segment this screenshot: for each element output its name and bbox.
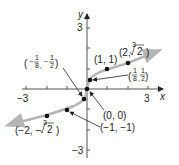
svg-text:): ) <box>56 125 59 136</box>
svg-text:2: 2 <box>137 46 143 57</box>
x-max-label: 3 <box>144 93 150 104</box>
point-m18 <box>82 97 87 102</box>
point-origin <box>85 87 90 92</box>
x-axis <box>22 86 163 89</box>
svg-text:1: 1 <box>50 54 54 61</box>
svg-text:−: − <box>29 58 33 65</box>
svg-text:(−2, −: (−2, − <box>15 125 41 136</box>
svg-text:8: 8 <box>35 62 39 69</box>
point-m2 <box>45 114 50 119</box>
y-axis-label: y <box>77 9 84 20</box>
svg-text:,: , <box>40 62 42 69</box>
point-m1 <box>65 108 70 113</box>
label-1-1: (1, 1) <box>94 54 117 65</box>
svg-text:1: 1 <box>133 67 137 74</box>
x-min-label: −3 <box>17 93 29 104</box>
y-max-label: 3 <box>77 22 83 33</box>
svg-text:(: ( <box>24 58 28 69</box>
svg-text:2: 2 <box>47 124 53 135</box>
point-1 <box>105 67 110 72</box>
y-min-label: −3 <box>72 145 84 156</box>
svg-text:): ) <box>55 58 58 69</box>
svg-text:2: 2 <box>50 62 54 69</box>
label-eighth-half: ( 1 8 , 1 2 ) <box>128 67 148 82</box>
x-axis-label: x <box>159 91 166 102</box>
point-18 <box>88 78 93 83</box>
svg-text:(2,: (2, <box>119 47 131 58</box>
label-neg-eighth-half: ( − 1 8 , − 1 2 ) <box>24 54 58 69</box>
svg-text:8: 8 <box>133 75 137 82</box>
svg-text:(: ( <box>128 71 132 82</box>
svg-text:3: 3 <box>132 41 136 48</box>
svg-text:1: 1 <box>35 54 39 61</box>
chart: x y −3 3 3 −3 (1, 1) (2, 3 2 ) ( 1 8 , 1 <box>0 0 179 165</box>
point-2 <box>126 61 131 66</box>
label-origin: (0, 0) <box>103 110 126 121</box>
svg-text:−: − <box>44 58 48 65</box>
label-m1-m1: (−1, −1) <box>100 122 135 133</box>
svg-text:): ) <box>145 71 148 82</box>
svg-text:,: , <box>138 75 140 82</box>
svg-text:): ) <box>146 47 149 58</box>
